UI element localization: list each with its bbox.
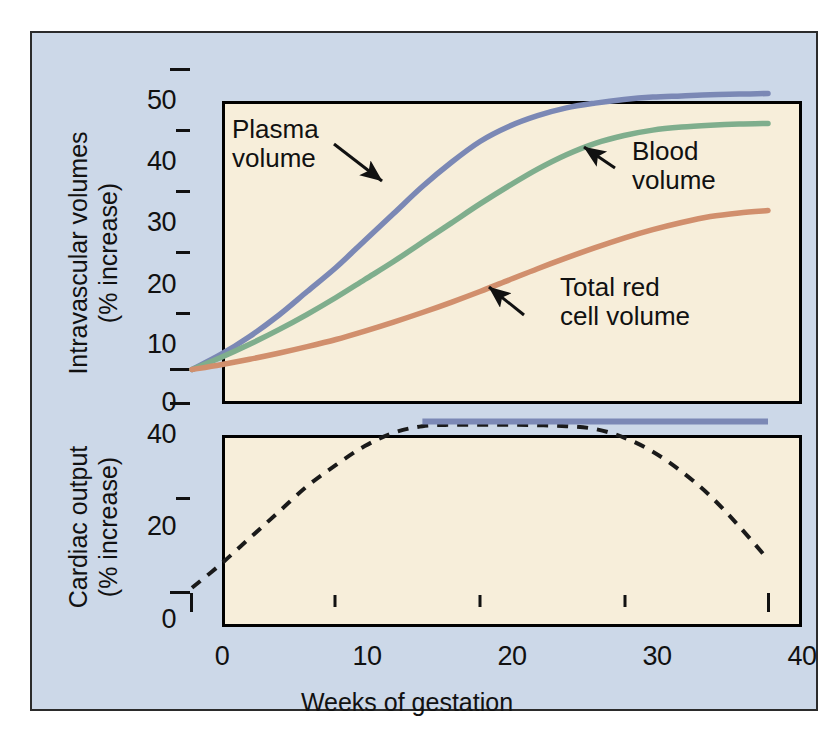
annotation-red-cell-volume: Total red cell volume <box>560 273 690 330</box>
annotation-blood-volume: Blood volume <box>632 137 716 194</box>
lower-plot-area <box>222 435 802 627</box>
xtick-10: 10 <box>337 641 397 672</box>
chart-panel: 50 40 30 20 10 0 40 20 0 0 10 20 30 40 W… <box>30 31 818 711</box>
upper-ytick-20: 20 <box>116 269 176 300</box>
annotation-plasma-volume: Plasma volume <box>232 115 319 172</box>
lower-y-axis-title-line1: Cardiac output <box>64 446 92 609</box>
annotation-redcell-line1: Total red <box>560 272 660 302</box>
xtick-0: 0 <box>192 641 252 672</box>
upper-ytick-50: 50 <box>116 85 176 116</box>
figure-root: 50 40 30 20 10 0 40 20 0 0 10 20 30 40 W… <box>0 0 840 745</box>
upper-ytick-0: 0 <box>116 387 176 418</box>
lower-ytick-0: 0 <box>116 604 176 635</box>
upper-y-axis-title: Intravascular volumes (% increase) <box>64 103 123 403</box>
lower-y-axis-title: Cardiac output (% increase) <box>64 427 123 627</box>
xtick-30: 30 <box>627 641 687 672</box>
annotation-blood-line2: volume <box>632 165 716 195</box>
x-axis-title: Weeks of gestation <box>301 688 513 718</box>
annotation-redcell-line2: cell volume <box>560 301 690 331</box>
xtick-20: 20 <box>482 641 542 672</box>
annotation-plasma-line2: volume <box>232 143 316 173</box>
lower-y-axis-title-line2: (% increase) <box>94 457 122 597</box>
lower-ytick-40: 40 <box>116 419 176 450</box>
annotation-blood-line1: Blood <box>632 136 699 166</box>
upper-y-axis-title-line2: (% increase) <box>94 183 122 323</box>
lower-ytick-20: 20 <box>116 511 176 542</box>
annotation-plasma-line1: Plasma <box>232 114 319 144</box>
upper-ytick-10: 10 <box>116 329 176 360</box>
xtick-40: 40 <box>772 641 832 672</box>
upper-y-axis-title-line1: Intravascular volumes <box>64 131 92 374</box>
upper-ytick-40: 40 <box>116 146 176 177</box>
upper-ytick-30: 30 <box>116 207 176 238</box>
